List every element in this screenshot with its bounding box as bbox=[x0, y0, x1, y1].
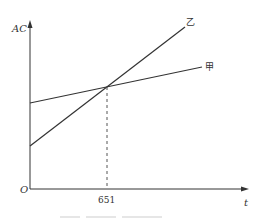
faint-caption bbox=[60, 207, 210, 213]
y-axis-label: AC bbox=[12, 24, 27, 34]
x-tick-label: 651 bbox=[98, 196, 115, 205]
origin-label: O bbox=[20, 185, 28, 195]
x-axis-label: t bbox=[244, 198, 248, 208]
x-axis-arrow-icon bbox=[241, 187, 249, 192]
series-line-yi bbox=[30, 27, 185, 146]
series-label-yi: 乙 bbox=[186, 18, 195, 27]
series-label-jia: 甲 bbox=[205, 63, 214, 72]
series-line-jia bbox=[30, 67, 202, 103]
chart-canvas bbox=[0, 0, 263, 218]
y-axis-arrow-icon bbox=[28, 20, 33, 28]
